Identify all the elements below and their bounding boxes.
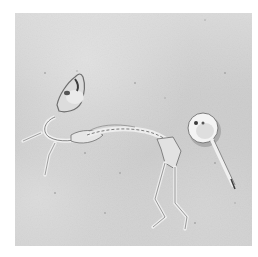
scene <box>15 13 252 246</box>
photograph <box>15 13 252 246</box>
